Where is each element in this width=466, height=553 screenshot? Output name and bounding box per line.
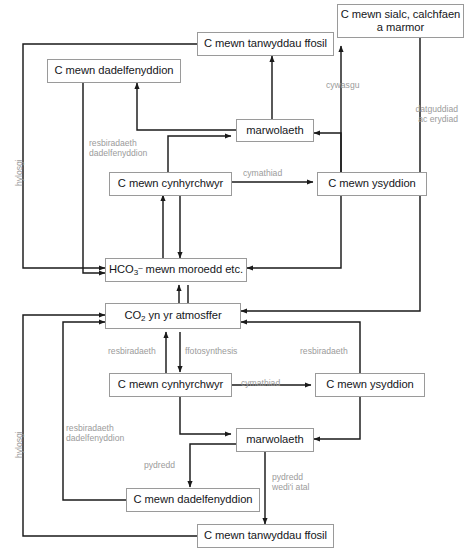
edge-producersbottom-to-deathbottom	[180, 397, 231, 434]
node-producers-top-label: C mewn cynhyrchwyr	[118, 177, 223, 190]
node-decomposers-top[interactable]: C mewn dadelfenyddion	[47, 59, 181, 83]
node-consumers-top-label: C mewn ysyddion	[328, 177, 416, 190]
node-producers-bottom-label: C mewn cynhyrchwyr	[118, 378, 223, 391]
node-fossil-fuels-bottom-label: C mewn tanwyddau ffosil	[204, 529, 327, 542]
edge-label-resbiradaeth-bottom-right: resbiradaeth	[300, 346, 348, 356]
atmosphere-suffix: yn yr atmosffer	[146, 309, 222, 321]
node-atmosphere-co2-label: CO2 yn yr atmosffer	[124, 309, 221, 322]
node-fossil-fuels-top[interactable]: C mewn tanwyddau ffosil	[197, 32, 334, 56]
node-decomposers-top-label: C mewn dadelfenyddion	[55, 64, 174, 77]
arrow-paths	[23, 38, 420, 536]
node-consumers-top[interactable]: C mewn ysyddion	[317, 172, 427, 196]
edge-label-cywasgu: cywasgu	[326, 80, 359, 90]
edge-consumerstop-to-deathtop	[314, 133, 341, 173]
node-consumers-bottom-label: C mewn ysyddion	[326, 378, 414, 391]
edge-label-pydredd: pydredd	[144, 460, 175, 470]
edge-label-resb-bottom-l1: resbiradaeth	[66, 423, 114, 433]
edge-label-pydredd-atal-l1: pydredd	[272, 472, 303, 482]
node-decomposers-bottom[interactable]: C mewn dadelfenyddion	[126, 488, 260, 512]
edge-label-cymathiad-bottom: cymathiad	[241, 378, 280, 388]
edge-label-pydredd-atal-l2: wedi'i atal	[272, 482, 309, 492]
edge-label-hylosgi-top: hylosgi	[14, 159, 24, 186]
node-producers-top[interactable]: C mewn cynhyrchwyr	[109, 172, 232, 196]
node-death-top-label: marwolaeth	[246, 124, 303, 137]
edge-label-datguddiad-l2: ac erydiad	[418, 114, 458, 124]
edge-label-cymathiad-top: cymathiad	[243, 168, 282, 178]
node-death-bottom[interactable]: marwolaeth	[236, 428, 314, 452]
node-bicarbonate-oceans-label: HCO3– mewn moroedd etc.	[109, 263, 243, 276]
node-fossil-fuels-bottom[interactable]: C mewn tanwyddau ffosil	[197, 524, 334, 548]
edge-label-pydredd-wedii-atal: pydredd wedi'i atal	[272, 472, 342, 493]
bicarbonate-prefix: HCO	[109, 263, 134, 275]
edge-label-resb-top-l2: dadelfenyddion	[89, 148, 147, 158]
edge-deathtop-to-decomposerstop	[137, 83, 236, 130]
edge-label-datguddiad-ac-erydiad: datguddiad ac erydiad	[384, 104, 458, 125]
bicarbonate-superscript: –	[138, 263, 142, 272]
node-fossil-fuels-top-label: C mewn tanwyddau ffosil	[204, 37, 327, 50]
edge-consumerstop-to-bicarbonate	[247, 195, 341, 268]
edge-label-datguddiad-l1: datguddiad	[415, 104, 458, 114]
edge-label-resbiradaeth-dadelfenyddion-bottom: resbiradaeth dadelfenyddion	[66, 423, 160, 444]
edge-deathbottom-to-decomposersbottom	[190, 444, 236, 487]
edge-decomposerstop-to-bicarbonate	[83, 83, 105, 273]
node-decomposers-bottom-label: C mewn dadelfenyddion	[134, 493, 253, 506]
node-producers-bottom[interactable]: C mewn cynhyrchwyr	[109, 373, 232, 397]
edge-label-resb-bottom-l2: dadelfenyddion	[66, 433, 124, 443]
edge-label-hylosgi-bottom: hylosgi	[14, 431, 24, 458]
edge-label-resbiradaeth-bottom-left: resbiradaeth	[108, 346, 156, 356]
edge-label-resbiradaeth-dadelfenyddion-top: resbiradaeth dadelfenyddion	[89, 138, 181, 159]
atmosphere-subscript: 2	[141, 314, 145, 323]
bicarbonate-suffix: mewn moroedd etc.	[143, 263, 243, 275]
node-death-top[interactable]: marwolaeth	[236, 119, 314, 142]
edge-consumersbottom-to-deathbottom	[314, 397, 360, 439]
node-bicarbonate-oceans[interactable]: HCO3– mewn moroedd etc.	[105, 258, 247, 282]
atmosphere-prefix: CO	[124, 309, 141, 321]
node-chalk-line2: a marmor	[377, 21, 424, 33]
node-death-bottom-label: marwolaeth	[246, 433, 303, 446]
node-consumers-bottom[interactable]: C mewn ysyddion	[315, 373, 425, 397]
node-chalk-line1: C mewn sialc, calchfaen	[341, 8, 460, 20]
node-chalk-limestone-marble[interactable]: C mewn sialc, calchfaen a marmor	[337, 4, 464, 38]
carbon-cycle-diagram: C mewn sialc, calchfaen a marmor C mewn …	[0, 0, 466, 553]
edge-label-ffotosynthesis: ffotosynthesis	[185, 346, 237, 356]
node-atmosphere-co2[interactable]: CO2 yn yr atmosffer	[105, 303, 241, 329]
edge-label-resb-top-l1: resbiradaeth	[89, 138, 137, 148]
